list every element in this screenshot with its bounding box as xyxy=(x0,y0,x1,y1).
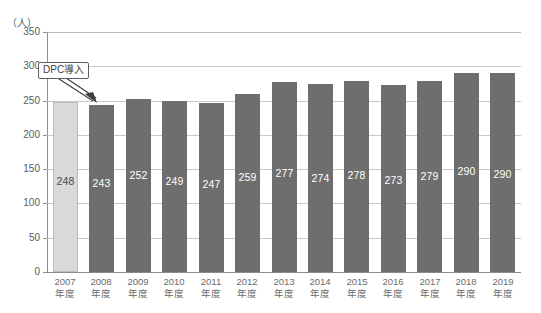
x-axis-category-label: 2009年度 xyxy=(120,276,156,299)
x-axis-year: 2011 xyxy=(193,276,229,288)
bar: 279 xyxy=(417,81,442,272)
x-axis-category-label: 2014年度 xyxy=(302,276,338,299)
x-axis-year: 2016 xyxy=(375,276,411,288)
bar: 248 xyxy=(53,102,78,272)
x-axis-year: 2017 xyxy=(412,276,448,288)
bar: 277 xyxy=(272,82,297,272)
bar-value-label: 249 xyxy=(162,176,187,187)
bar-value-label: 274 xyxy=(308,173,333,184)
x-axis-category-label: 2013年度 xyxy=(266,276,302,299)
x-axis-category-label: 2019年度 xyxy=(485,276,521,299)
x-axis-year-suffix: 年度 xyxy=(120,288,156,300)
x-axis-category-label: 2015年度 xyxy=(339,276,375,299)
x-axis-year-suffix: 年度 xyxy=(339,288,375,300)
bar-value-label: 252 xyxy=(126,170,151,181)
bar-value-label: 290 xyxy=(490,169,515,180)
x-axis-category-label: 2007年度 xyxy=(47,276,83,299)
bar-value-label: 273 xyxy=(381,175,406,186)
x-axis-year-suffix: 年度 xyxy=(448,288,484,300)
x-axis-year-suffix: 年度 xyxy=(485,288,521,300)
x-axis-year: 2008 xyxy=(83,276,119,288)
x-axis-year-suffix: 年度 xyxy=(266,288,302,300)
x-axis-category-label: 2018年度 xyxy=(448,276,484,299)
bar-chart: （人） 050100150200250300350 24824325224924… xyxy=(0,0,541,313)
x-axis-year: 2010 xyxy=(156,276,192,288)
bar: 252 xyxy=(126,99,151,272)
bar: 273 xyxy=(381,85,406,272)
x-axis-year-suffix: 年度 xyxy=(83,288,119,300)
bar: 290 xyxy=(454,73,479,272)
bar: 247 xyxy=(199,103,224,272)
x-axis-year-suffix: 年度 xyxy=(193,288,229,300)
bar-value-label: 290 xyxy=(454,166,479,177)
bar-value-label: 247 xyxy=(199,179,224,190)
bar: 290 xyxy=(490,73,515,272)
x-axis-category-label: 2011年度 xyxy=(193,276,229,299)
x-axis-year-suffix: 年度 xyxy=(375,288,411,300)
x-axis-year: 2007 xyxy=(47,276,83,288)
bar-value-label: 243 xyxy=(89,178,114,189)
x-axis-year: 2013 xyxy=(266,276,302,288)
bar: 243 xyxy=(89,105,114,272)
x-axis-year-suffix: 年度 xyxy=(229,288,265,300)
x-axis-category-label: 2008年度 xyxy=(83,276,119,299)
x-axis-year: 2015 xyxy=(339,276,375,288)
bar-value-label: 277 xyxy=(272,168,297,179)
x-axis-year: 2012 xyxy=(229,276,265,288)
bar: 278 xyxy=(344,81,369,272)
x-axis-year-suffix: 年度 xyxy=(302,288,338,300)
x-axis-year: 2009 xyxy=(120,276,156,288)
bars-layer: 248243252249247259277274278273279290290 xyxy=(0,0,541,313)
x-axis-category-label: 2012年度 xyxy=(229,276,265,299)
x-axis-year-suffix: 年度 xyxy=(412,288,448,300)
x-axis-year-suffix: 年度 xyxy=(156,288,192,300)
bar-value-label: 278 xyxy=(344,170,369,181)
bar: 249 xyxy=(162,101,187,272)
x-axis-category-label: 2016年度 xyxy=(375,276,411,299)
x-axis-category-label: 2017年度 xyxy=(412,276,448,299)
x-axis-category-label: 2010年度 xyxy=(156,276,192,299)
bar-value-label: 259 xyxy=(235,172,260,183)
bar-value-label: 248 xyxy=(54,176,77,187)
x-axis-year-suffix: 年度 xyxy=(47,288,83,300)
dpc-annotation-label: DPC導入 xyxy=(38,62,89,79)
bar: 274 xyxy=(308,84,333,272)
x-axis-year: 2019 xyxy=(485,276,521,288)
bar-value-label: 279 xyxy=(417,171,442,182)
x-axis-year: 2018 xyxy=(448,276,484,288)
x-axis-year: 2014 xyxy=(302,276,338,288)
bar: 259 xyxy=(235,94,260,272)
